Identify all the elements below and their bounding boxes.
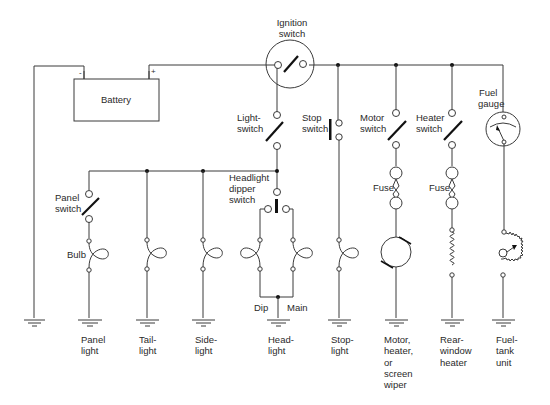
main-label: Main [287,302,308,313]
dipper-switch-label-1: Headlight [229,172,269,183]
side-light-label-2: light [195,345,213,356]
stop-switch-bar [329,119,332,140]
battery: - + Battery [74,67,159,121]
stop-light-label-1: Stop- [331,334,354,345]
motor-switch-label-1: Motor [360,112,384,123]
ignition-switch: Ignition switch [266,17,314,88]
heater-switch-label-2: switch [416,123,442,134]
dipper-contact-bar [275,199,278,213]
fuel-gauge-icon [486,112,520,146]
panel-light-branch: Panel switch Bulb [55,191,108,319]
ground-icon [328,320,351,326]
motor-branch: Motor switch Fuse [360,65,411,318]
bulb-icon [87,239,109,272]
dipper-switch-label-3: switch [229,194,255,205]
battery-positive-label: + [151,67,156,76]
heater-branch: Heater switch Fuse [416,65,462,318]
rear-window-heater-label-2: window [439,345,472,356]
fuel-tank-unit-label-1: Fuel- [496,334,518,345]
panel-switch-label-2: switch [55,203,81,214]
tail-light-label-2: light [139,345,157,356]
fuel-gauge-branch: Fuel gauge [478,87,523,318]
stop-switch-label-2: switch [302,123,328,134]
bulb-icon [145,238,167,271]
motor-fuse-label: Fuse [373,182,394,193]
motor-switch-label-2: switch [360,123,386,134]
fuel-gauge-label-2: gauge [478,98,504,109]
motor-icon [381,237,411,268]
tail-light-branch [145,171,167,318]
tail-light-label-1: Tail- [139,334,156,345]
fuel-tank-unit-label-2: tank [496,345,514,356]
rear-window-heater-label-3: heater [440,357,467,368]
head-light-label-1: Head- [268,334,294,345]
battery-label: Battery [101,94,131,105]
stop-switch-label-1: Stop [302,112,322,123]
ground-symbols [24,320,515,326]
fuel-tank-unit-label-3: unit [496,357,512,368]
heater-switch-label-1: Heater [416,112,445,123]
wiring-diagram: - + Battery Ignition switch Light- switc… [0,0,550,405]
motor-label-2: heater, [384,345,413,356]
panel-light-label-1: Panel [81,334,105,345]
ground-icon [492,320,515,326]
bulb-icon [337,238,359,271]
heater-fuse-label: Fuse [429,182,450,193]
motor-label-5: wiper [383,379,407,390]
dipper-switch-label-2: dipper [229,183,255,194]
light-switch-label-2: switch [237,123,263,134]
ground-icon [441,320,464,326]
fuel-tank-sender-icon [499,230,523,277]
dip-label: Dip [254,302,268,313]
motor-label-4: screen [384,368,413,379]
ignition-switch-label-1: Ignition [277,17,308,28]
ground-icon [192,320,215,326]
bulb-label: Bulb [67,249,86,260]
bulb-icon [201,238,223,271]
battery-negative-label: - [79,68,82,77]
ignition-switch-label-2: switch [279,28,305,39]
stop-light-branch: Stop switch [302,65,358,318]
light-switch-label-1: Light- [237,112,261,123]
main-filament-icon [291,238,313,271]
heater-coil-icon [450,228,454,277]
ground-icon [78,320,102,326]
motor-label-1: Motor, [384,334,410,345]
side-light-label-1: Side- [195,334,217,345]
fuel-gauge-label-1: Fuel [479,87,497,98]
ground-icon [24,320,45,326]
motor-label-3: or [384,357,392,368]
rear-window-heater-label-1: Rear- [440,334,464,345]
head-light-label-2: light [268,345,286,356]
headlight-branch: Headlight dipper switch Dip Main [229,172,312,318]
ground-icon [267,320,290,326]
side-light-branch [201,171,223,318]
ground-icon [136,320,159,326]
panel-switch-label-1: Panel [55,192,79,203]
stop-light-label-2: light [331,345,349,356]
dip-filament-icon [241,238,263,271]
ground-icon [385,320,408,326]
load-labels: Panel light Tail- light Side- light Head… [81,334,518,390]
panel-light-label-2: light [81,345,99,356]
